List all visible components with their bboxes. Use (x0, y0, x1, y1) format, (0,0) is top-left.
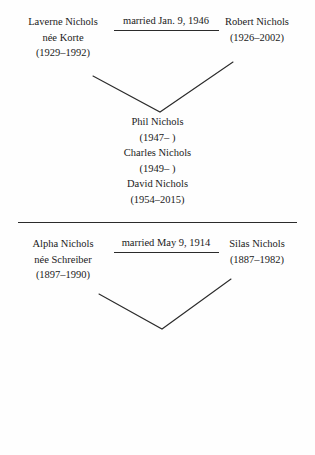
family-block-2: Alpha Nichols née Schreiber (1897–1990) … (0, 222, 315, 455)
parent-right-1: Robert Nichols (1926–2002) (205, 14, 309, 45)
list-item: Charles Nichols (1949– ) (0, 145, 315, 176)
parent-right-2: Silas Nichols (1887–1982) (205, 236, 309, 267)
family-tree-diagram: Laverne Nichols née Korte (1929–1992) ma… (0, 0, 315, 455)
parents-row-2: Alpha Nichols née Schreiber (1897–1990) … (0, 222, 315, 284)
parents-row-1: Laverne Nichols née Korte (1929–1992) ma… (0, 0, 315, 62)
children-list-1: Phil Nichols (1947– ) Charles Nichols (1… (0, 114, 315, 208)
parent-maiden: née Schreiber (11, 252, 115, 268)
v-connector-line (99, 279, 231, 329)
child-name: David Nichols (0, 176, 315, 192)
parent-left-1: Laverne Nichols née Korte (1929–1992) (11, 14, 115, 61)
parent-maiden: née Korte (11, 30, 115, 46)
parent-name: Robert Nichols (205, 14, 309, 30)
parent-years: (1926–2002) (205, 30, 309, 46)
descent-connector-2 (0, 278, 315, 340)
child-name: Charles Nichols (0, 145, 315, 161)
marriage-underline (114, 252, 219, 253)
list-item: Phil Nichols (1947– ) (0, 114, 315, 145)
child-years: (1954–2015) (0, 192, 315, 208)
v-connector-line (93, 62, 233, 112)
marriage-underline (114, 30, 219, 31)
child-years: (1949– ) (0, 161, 315, 177)
descent-connector-1 (0, 56, 315, 118)
parent-name: Laverne Nichols (11, 14, 115, 30)
parent-years: (1887–1982) (205, 252, 309, 268)
child-years: (1947– ) (0, 130, 315, 146)
list-item: David Nichols (1954–2015) (0, 176, 315, 207)
parent-name: Alpha Nichols (11, 236, 115, 252)
family-block-1: Laverne Nichols née Korte (1929–1992) ma… (0, 0, 315, 222)
parent-left-2: Alpha Nichols née Schreiber (1897–1990) (11, 236, 115, 283)
child-name: Phil Nichols (0, 114, 315, 130)
parent-name: Silas Nichols (205, 236, 309, 252)
